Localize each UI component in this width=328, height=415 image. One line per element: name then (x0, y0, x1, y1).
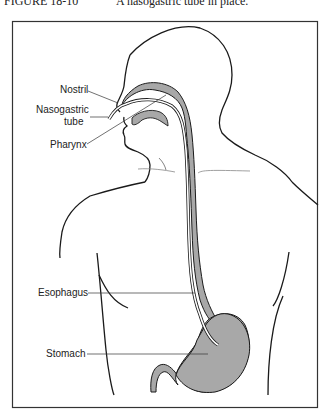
digestive-tract (122, 83, 250, 393)
label-pharynx: Pharynx (50, 139, 87, 150)
nasogastric-tube-diagram: Nostril Nasogastric tube Pharynx Esophag… (0, 0, 328, 415)
label-tube: tube (64, 116, 84, 127)
label-nostril: Nostril (60, 84, 88, 95)
nasogastric-tube (109, 100, 218, 345)
label-stomach: Stomach (46, 348, 85, 359)
label-esophagus: Esophagus (38, 287, 88, 298)
label-nasogastric: Nasogastric (36, 104, 89, 115)
